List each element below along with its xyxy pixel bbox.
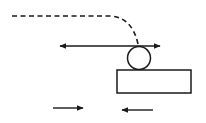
block-rectangle — [117, 70, 191, 93]
dashed-trajectory-path — [12, 16, 138, 44]
ball-circle — [128, 47, 151, 70]
diagram-canvas — [0, 0, 206, 123]
diagram-svg — [0, 0, 206, 123]
